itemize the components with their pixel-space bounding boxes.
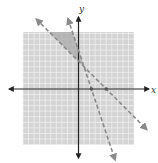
y-axis-label: y bbox=[78, 4, 85, 14]
x-intercept-point-2 bbox=[90, 87, 94, 91]
graph: y x bbox=[0, 0, 158, 163]
x-intercept-point-1 bbox=[104, 87, 108, 91]
x-axis-label: x bbox=[151, 85, 156, 95]
